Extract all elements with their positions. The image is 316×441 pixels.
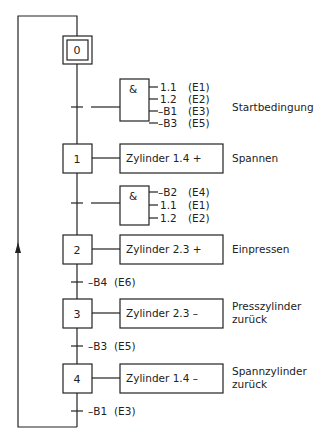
input-signal: 1.2 xyxy=(160,93,177,105)
step-comment: Spannen xyxy=(232,152,278,164)
action-label: Zylinder 1.4 – xyxy=(126,372,198,384)
step-1-number: 1 xyxy=(74,153,81,166)
step-comment-line1: Spannzylinder xyxy=(232,365,307,377)
transition-comment: Startbedingung xyxy=(232,101,314,113)
and-gate-symbol: & xyxy=(129,190,137,202)
transition-0-1: & 1.1 (E1) 1.2 (E2) –B1 (E3) –B3 (E5) St… xyxy=(71,79,314,129)
transition-address: (E5) xyxy=(114,340,136,352)
input-address: (E1) xyxy=(188,81,210,93)
transition-1-2: & –B2 (E4) 1.1 (E1) 1.2 (E2) xyxy=(71,186,210,225)
and-gate-symbol: & xyxy=(129,83,137,95)
transition-condition: –B4 xyxy=(88,276,107,288)
step-0: 0 xyxy=(63,36,92,64)
action-label: Zylinder 2.3 – xyxy=(126,307,198,319)
arrow-up-icon xyxy=(15,242,21,253)
step-1: 1 Zylinder 1.4 + Spannen xyxy=(63,144,278,173)
action-label: Zylinder 2.3 + xyxy=(126,243,202,255)
input-address: (E2) xyxy=(188,93,210,105)
grafcet-diagram: 0 & 1.1 (E1) 1.2 (E2) –B1 (E3) –B3 (E5) … xyxy=(0,0,316,441)
step-4: 4 Zylinder 1.4 – Spannzylinder zurück xyxy=(63,364,307,393)
input-signal: –B1 xyxy=(158,105,177,117)
step-comment-line2: zurück xyxy=(232,378,268,390)
step-3: 3 Zylinder 2.3 – Presszylinder zurück xyxy=(63,299,302,328)
input-signal: 1.1 xyxy=(160,81,177,93)
input-signal: 1.1 xyxy=(160,199,177,211)
step-2-number: 2 xyxy=(74,244,81,257)
input-address: (E5) xyxy=(188,117,210,129)
transition-2-3: –B4 (E6) xyxy=(71,276,136,288)
step-4-number: 4 xyxy=(74,373,81,386)
step-3-number: 3 xyxy=(74,308,81,321)
input-address: (E1) xyxy=(188,199,210,211)
step-0-number: 0 xyxy=(74,44,81,57)
step-comment-line2: zurück xyxy=(232,313,268,325)
action-label: Zylinder 1.4 + xyxy=(126,152,202,164)
step-comment: Einpressen xyxy=(232,243,289,255)
input-signal: –B2 xyxy=(158,186,177,198)
input-signal: –B3 xyxy=(158,117,177,129)
input-address: (E4) xyxy=(188,186,210,198)
transition-condition: –B3 xyxy=(88,340,107,352)
step-comment-line1: Presszylinder xyxy=(232,300,302,312)
transition-3-4: –B3 (E5) xyxy=(71,340,136,352)
input-address: (E2) xyxy=(188,212,210,224)
input-signal: 1.2 xyxy=(160,212,177,224)
transition-address: (E3) xyxy=(114,405,136,417)
transition-4-0: –B1 (E3) xyxy=(71,405,136,417)
step-2: 2 Zylinder 2.3 + Einpressen xyxy=(63,235,289,264)
input-address: (E3) xyxy=(188,105,210,117)
transition-condition: –B1 xyxy=(88,405,107,417)
transition-address: (E6) xyxy=(114,276,136,288)
